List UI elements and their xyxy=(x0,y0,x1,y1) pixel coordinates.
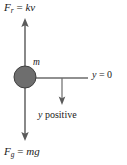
free-body-diagram: Fr = kv Fg = mg m y = 0 y positive xyxy=(0,0,127,165)
gravitational-force-subscript: g xyxy=(11,150,15,159)
gravitational-force-arrow xyxy=(21,86,28,141)
gravitational-force-symbol: F xyxy=(4,145,11,157)
resistive-force-equals: = xyxy=(16,1,22,13)
y-positive-label: y positive xyxy=(38,110,77,120)
y-zero-label: y = 0 xyxy=(92,70,112,80)
y-zero-symbol: y xyxy=(92,69,96,80)
resistive-force-symbol: F xyxy=(4,1,11,13)
mass-label: m xyxy=(33,58,40,68)
vector-canvas xyxy=(0,0,127,165)
gravitational-force-expression: mg xyxy=(26,145,39,157)
resistive-force-subscript: r xyxy=(11,6,14,15)
y-positive-word: positive xyxy=(45,109,77,120)
y-zero-equals: = xyxy=(99,69,105,80)
y-positive-arrow xyxy=(59,78,66,105)
gravitational-force-equals: = xyxy=(17,145,23,157)
resistive-force-arrow xyxy=(21,18,28,69)
gravitational-force-label: Fg = mg xyxy=(4,146,40,159)
resistive-force-label: Fr = kv xyxy=(4,2,35,15)
y-zero-value: 0 xyxy=(107,69,112,80)
y-positive-symbol: y xyxy=(38,109,42,120)
mass-ball xyxy=(14,66,36,88)
resistive-force-expression: kv xyxy=(25,1,35,13)
